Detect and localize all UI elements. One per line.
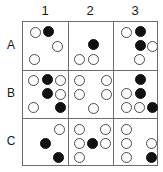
grid-cell-c1 (23, 120, 68, 168)
open-circle-icon (134, 102, 145, 113)
filled-circle-icon (43, 26, 54, 37)
open-circle-icon (101, 89, 112, 100)
open-circle-icon (54, 124, 65, 135)
open-circle-icon (121, 88, 132, 99)
open-circle-icon (88, 54, 99, 65)
filled-circle-icon (42, 74, 53, 85)
filled-circle-icon (146, 152, 157, 163)
filled-circle-icon (42, 88, 53, 99)
open-circle-icon (121, 124, 132, 135)
column-header-3: 3 (112, 3, 158, 18)
open-circle-icon (28, 75, 39, 86)
grid-cell-b3 (115, 71, 160, 119)
row-header-a: A (2, 38, 20, 52)
grid-cell-a1 (23, 22, 68, 70)
open-circle-icon (52, 41, 63, 52)
open-circle-icon (121, 152, 132, 163)
filled-circle-icon (40, 138, 51, 149)
grid-cell-a2 (69, 22, 114, 70)
open-circle-icon (134, 54, 145, 65)
filled-circle-icon (135, 74, 146, 85)
open-circle-icon (121, 138, 132, 149)
open-circle-icon (74, 75, 85, 86)
filled-circle-icon (55, 102, 66, 113)
grid-table (22, 21, 158, 166)
filled-circle-icon (147, 102, 158, 113)
grid-cell-c2 (69, 120, 114, 168)
open-circle-icon (28, 102, 39, 113)
filled-circle-icon (135, 26, 146, 37)
filled-circle-icon (87, 138, 98, 149)
open-circle-icon (29, 54, 40, 65)
open-circle-icon (74, 152, 85, 163)
filled-circle-icon (88, 39, 99, 50)
filled-circle-icon (135, 40, 146, 51)
grid-cell-b1 (23, 71, 68, 119)
grid-cell-a3 (115, 22, 160, 70)
filled-circle-icon (53, 152, 64, 163)
open-circle-icon (121, 102, 132, 113)
circle-grid-figure: 1 2 3 A B C (0, 0, 163, 172)
column-header-1: 1 (22, 3, 68, 18)
open-circle-icon (74, 54, 85, 65)
open-circle-icon (100, 138, 111, 149)
open-circle-icon (30, 27, 41, 38)
open-circle-icon (88, 103, 99, 114)
open-circle-icon (55, 89, 66, 100)
grid-cell-c3 (115, 120, 160, 168)
open-circle-icon (74, 124, 85, 135)
open-circle-icon (74, 138, 85, 149)
open-circle-icon (74, 89, 85, 100)
column-header-2: 2 (67, 3, 113, 18)
filled-circle-icon (135, 88, 146, 99)
open-circle-icon (121, 27, 132, 38)
row-header-c: C (2, 134, 20, 148)
open-circle-icon (55, 75, 66, 86)
open-circle-icon (101, 75, 112, 86)
row-header-b: B (2, 86, 20, 100)
open-circle-icon (100, 124, 111, 135)
open-circle-icon (146, 138, 157, 149)
grid-cell-b2 (69, 71, 114, 119)
open-circle-icon (147, 41, 158, 52)
